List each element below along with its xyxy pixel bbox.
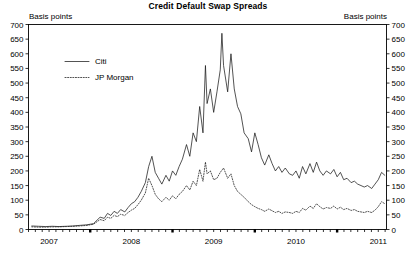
y-tick-label: 200 (392, 167, 406, 176)
y-tick-label: 100 (10, 196, 24, 205)
y-axis-left: 0501001502002503003504004505005506006507… (10, 21, 28, 235)
x-tick-label: 2011 (370, 237, 388, 246)
x-tick-label: 2007 (40, 237, 58, 246)
y-tick-label: 0 (392, 226, 397, 235)
legend-label: JP Morgan (95, 73, 134, 82)
plot-frame (29, 25, 387, 230)
y-axis-right: 0501001502002503003504004505005506006507… (387, 21, 406, 235)
y-tick-label: 350 (392, 123, 406, 132)
y-tick-label: 550 (392, 64, 406, 73)
y-tick-label: 550 (10, 64, 24, 73)
y-tick-label: 700 (392, 21, 406, 30)
chart-legend: CitiJP Morgan (65, 57, 134, 82)
x-axis: 20072008200920102011 (29, 229, 388, 246)
y-tick-label: 450 (392, 94, 406, 103)
y-tick-label: 700 (10, 21, 24, 30)
y-tick-label: 650 (10, 35, 24, 44)
y-tick-label: 300 (10, 138, 24, 147)
series-layer (32, 33, 385, 227)
y-tick-label: 500 (10, 79, 24, 88)
series-line-citi (32, 33, 385, 226)
y-tick-label: 350 (10, 123, 24, 132)
y-tick-label: 50 (15, 211, 24, 220)
y-tick-label: 600 (392, 50, 406, 59)
y-tick-label: 500 (392, 79, 406, 88)
y-tick-label: 150 (10, 182, 24, 191)
y-tick-label: 0 (19, 226, 24, 235)
x-tick-label: 2008 (122, 237, 140, 246)
y-tick-label: 200 (10, 167, 24, 176)
y-tick-label: 600 (10, 50, 24, 59)
x-tick-label: 2009 (205, 237, 223, 246)
chart-container: Credit Default Swap Spreads Basis points… (0, 0, 416, 259)
x-tick-label: 2010 (287, 237, 305, 246)
y-tick-label: 400 (10, 108, 24, 117)
y-tick-label: 650 (392, 35, 406, 44)
y-tick-label: 300 (392, 138, 406, 147)
chart-plot: 0501001502002503003504004505005506006507… (0, 0, 416, 259)
y-tick-label: 50 (392, 211, 401, 220)
y-tick-label: 150 (392, 182, 406, 191)
y-tick-label: 450 (10, 94, 24, 103)
y-tick-label: 250 (10, 152, 24, 161)
y-tick-label: 250 (392, 152, 406, 161)
y-tick-label: 100 (392, 196, 406, 205)
y-tick-label: 400 (392, 108, 406, 117)
legend-label: Citi (95, 57, 107, 66)
